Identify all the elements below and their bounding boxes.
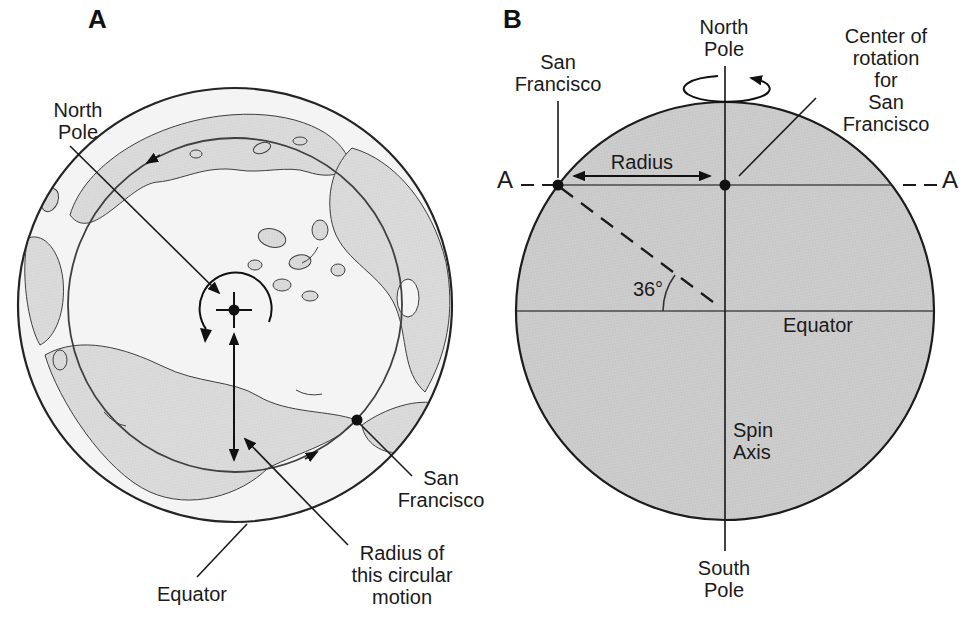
label-north-pole: North Pole: [700, 16, 749, 60]
san-francisco-dot: [553, 180, 564, 191]
figure-earth-rotation: A B North Pole Equator San Francisco Rad…: [0, 0, 964, 629]
island: [293, 137, 307, 145]
label-san-francisco: San Francisco: [515, 51, 602, 95]
label-latitude-angle: 36°: [633, 278, 663, 300]
center-of-rotation-dot: [720, 180, 731, 191]
panel-a-letter: A: [88, 6, 107, 32]
label-equator: Equator: [783, 314, 853, 336]
north-pole-dot: [229, 305, 240, 316]
label-san-francisco: San Francisco: [398, 467, 485, 511]
label-north-pole: North Pole: [54, 99, 103, 143]
label-radius-note: Radius of this circular motion: [351, 542, 452, 608]
label-spin-axis: Spin Axis: [733, 419, 773, 463]
section-marker-a-left: A: [497, 168, 513, 192]
island: [312, 220, 328, 240]
island: [190, 150, 202, 158]
label-equator: Equator: [157, 583, 227, 605]
panel-b-letter: B: [503, 6, 522, 32]
label-radius: Radius: [611, 151, 673, 173]
island: [331, 264, 345, 276]
island: [53, 350, 67, 370]
spin-rotation-arrow: [684, 76, 770, 102]
label-center-of-rotation: Center of rotation for San Francisco: [843, 25, 930, 135]
panel-a-globe-view: [18, 88, 452, 577]
equator-leader-line: [197, 524, 247, 577]
section-marker-a-right: A: [942, 168, 958, 192]
island: [302, 291, 318, 301]
island: [248, 260, 262, 270]
island: [273, 279, 291, 291]
san-francisco-dot: [352, 415, 363, 426]
label-south-pole: South Pole: [698, 557, 750, 601]
panel-b-side-view: [516, 66, 937, 551]
